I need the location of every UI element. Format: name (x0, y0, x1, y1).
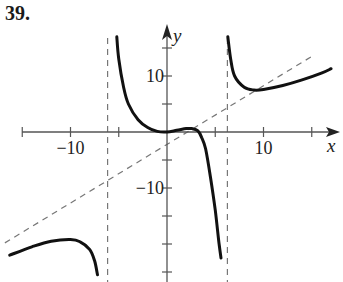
curve-branch (228, 37, 331, 90)
x-tick-label: 10 (255, 138, 273, 158)
x-tick-label: −10 (56, 138, 84, 158)
curve-branch (10, 239, 98, 274)
y-axis-label: y (171, 25, 182, 46)
y-tick-label: 10 (146, 66, 164, 86)
chart: −101010−10xy (0, 0, 343, 282)
y-tick-label: −10 (136, 178, 164, 198)
curve-branch (117, 37, 221, 258)
x-axis-label: x (326, 135, 336, 156)
